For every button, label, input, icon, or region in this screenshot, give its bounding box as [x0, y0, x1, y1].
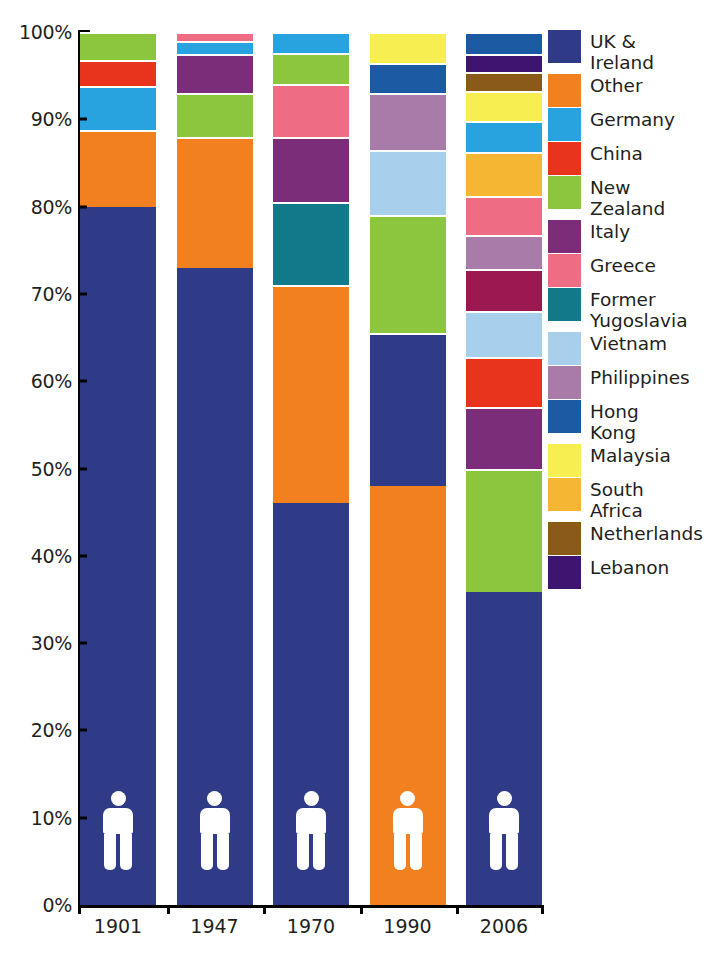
bar-segment[interactable] — [466, 121, 542, 152]
bar-segment[interactable] — [466, 196, 542, 234]
legend-swatch — [548, 30, 581, 63]
bar-segment[interactable] — [177, 54, 253, 93]
y-tick-label: 100% — [19, 21, 72, 43]
person-icon — [391, 791, 425, 870]
bar-segment[interactable] — [370, 63, 446, 94]
bar-segment[interactable] — [177, 93, 253, 137]
bar-segment[interactable] — [466, 72, 542, 91]
person-icon — [487, 791, 521, 870]
bar-segment[interactable] — [80, 86, 156, 130]
legend-item[interactable]: Malaysia — [548, 444, 719, 477]
x-tick-mark — [360, 905, 363, 914]
legend-item[interactable]: South Africa — [548, 478, 719, 521]
legend-label: Malaysia — [590, 444, 671, 466]
legend-item[interactable]: UK & Ireland — [548, 30, 719, 73]
bar-segment[interactable] — [177, 41, 253, 54]
bar-segment[interactable] — [466, 91, 542, 121]
bar-segment[interactable] — [80, 32, 156, 60]
bar-segment[interactable] — [466, 269, 542, 310]
legend-item[interactable]: Former Yugoslavia — [548, 288, 719, 331]
legend-swatch — [548, 74, 581, 107]
legend-swatch — [548, 556, 581, 589]
legend-item[interactable]: New Zealand — [548, 176, 719, 219]
legend-label: Vietnam — [590, 332, 667, 354]
bar-segment[interactable] — [466, 54, 542, 72]
bar-segment[interactable] — [370, 93, 446, 150]
bar-segment[interactable] — [370, 215, 446, 333]
bar-segment[interactable] — [273, 32, 349, 53]
legend-label: Hong Kong — [590, 400, 639, 443]
legend-item[interactable]: Vietnam — [548, 332, 719, 365]
bar-column[interactable] — [466, 32, 542, 905]
legend-label: New Zealand — [590, 176, 665, 219]
y-tick-mark — [78, 554, 87, 557]
bar-segment[interactable] — [80, 130, 156, 207]
legend-item[interactable]: Germany — [548, 108, 719, 141]
legend-label: Former Yugoslavia — [590, 288, 688, 331]
y-tick-mark — [78, 642, 87, 645]
bar-segment[interactable] — [370, 150, 446, 215]
bar-column[interactable] — [177, 32, 253, 905]
x-tick-label: 1901 — [94, 915, 142, 937]
bar-segment[interactable] — [273, 137, 349, 202]
bar-column[interactable] — [370, 32, 446, 905]
legend-item[interactable]: Lebanon — [548, 556, 719, 589]
y-tick-label: 10% — [31, 807, 72, 829]
x-tick-label: 2006 — [480, 915, 528, 937]
legend-label: South Africa — [590, 478, 644, 521]
x-axis-end-cap — [78, 905, 81, 914]
legend-item[interactable]: Philippines — [548, 366, 719, 399]
bar-segment[interactable] — [370, 32, 446, 63]
legend-label: China — [590, 142, 643, 164]
bar-segment[interactable] — [370, 333, 446, 486]
legend-item[interactable]: China — [548, 142, 719, 175]
bar-segment[interactable] — [177, 32, 253, 41]
y-tick-mark — [78, 467, 87, 470]
y-tick-mark — [78, 118, 87, 121]
legend-item[interactable]: Other — [548, 74, 719, 107]
bar-segment[interactable] — [466, 469, 542, 593]
y-axis: 0%10%20%30%40%50%60%70%80%90%100% — [0, 0, 80, 959]
bar-segment[interactable] — [466, 357, 542, 408]
legend-swatch — [548, 366, 581, 399]
bar-segment[interactable] — [80, 60, 156, 86]
legend-item[interactable]: Netherlands — [548, 522, 719, 555]
legend-swatch — [548, 400, 581, 433]
y-tick-label: 30% — [31, 632, 72, 654]
bar-segment[interactable] — [273, 53, 349, 84]
legend-swatch — [548, 254, 581, 287]
y-tick-label: 90% — [31, 108, 72, 130]
bar-segment[interactable] — [466, 235, 542, 270]
y-tick-mark — [78, 729, 87, 732]
bar-segment[interactable] — [466, 311, 542, 357]
legend-item[interactable]: Hong Kong — [548, 400, 719, 443]
bar-segment[interactable] — [466, 152, 542, 197]
bar-segment[interactable] — [273, 84, 349, 136]
x-tick-label: 1990 — [383, 915, 431, 937]
y-tick-mark — [78, 205, 87, 208]
legend-label: UK & Ireland — [590, 30, 654, 73]
stacked-bar-chart: 0%10%20%30%40%50%60%70%80%90%100% 190119… — [0, 0, 719, 959]
legend-swatch — [548, 332, 581, 365]
x-tick-mark — [456, 905, 459, 914]
bar-segment[interactable] — [466, 407, 542, 468]
x-axis-line — [78, 905, 544, 908]
bar-segment[interactable] — [177, 137, 253, 268]
y-tick-label: 60% — [31, 370, 72, 392]
x-axis-end-cap — [541, 905, 544, 914]
bar-segment[interactable] — [273, 285, 349, 503]
y-tick-label: 70% — [31, 283, 72, 305]
bar-column[interactable] — [80, 32, 156, 905]
legend-swatch — [548, 522, 581, 555]
legend-item[interactable]: Italy — [548, 220, 719, 253]
y-tick-mark — [78, 816, 87, 819]
legend-label: Greece — [590, 254, 656, 276]
bar-segment[interactable] — [466, 32, 542, 54]
y-tick-label: 20% — [31, 719, 72, 741]
y-tick-label: 0% — [42, 894, 72, 916]
x-tick-label: 1970 — [287, 915, 335, 937]
x-tick-mark — [263, 905, 266, 914]
bar-segment[interactable] — [273, 202, 349, 285]
bar-column[interactable] — [273, 32, 349, 905]
legend-item[interactable]: Greece — [548, 254, 719, 287]
